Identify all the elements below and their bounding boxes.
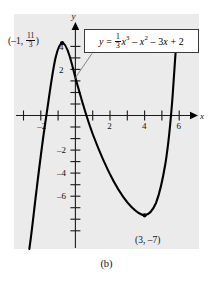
y-axis — [70, 22, 80, 248]
figure-caption: (b) — [0, 258, 213, 269]
cubic-curve — [29, 33, 177, 249]
xtick-label-2: 2 — [107, 121, 112, 131]
minimum-point-marker — [143, 213, 147, 217]
x-axis-label: x — [199, 111, 204, 121]
equation-text: y = 13x3 – x2 – 3x + 2 — [99, 33, 184, 49]
ytick-label-neg6: –6 — [56, 191, 67, 201]
xtick-label-6: 6 — [177, 121, 182, 131]
x-axis-arrow — [190, 112, 198, 120]
xtick-label-4: 4 — [142, 121, 147, 131]
figure-screenshot: –2 2 4 6 x 4 2 –2 –4 –6 y y = 13x3 – x2 … — [0, 0, 213, 283]
eleven-thirds-fraction: 113 — [26, 32, 35, 48]
one-third-fraction: 13 — [115, 33, 121, 49]
y-axis-label: y — [71, 11, 76, 21]
ytick-label-2: 2 — [59, 65, 64, 75]
callout-leader-line — [75, 54, 93, 80]
maximum-point-label: (–1, 113) — [8, 32, 39, 48]
equation-callout-box: y = 13x3 – x2 – 3x + 2 — [84, 29, 199, 53]
y-axis-arrow — [72, 22, 80, 30]
ytick-label-neg4: –4 — [56, 168, 67, 178]
maximum-point-marker — [60, 41, 64, 45]
ytick-label-neg2: –2 — [56, 145, 66, 155]
minimum-point-label: (3, –7) — [135, 236, 160, 246]
